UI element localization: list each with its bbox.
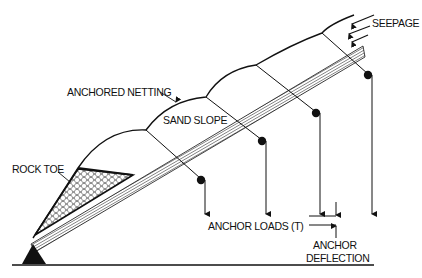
label-anchor-deflection-2: DEFLECTION — [306, 252, 370, 264]
label-seepage: SEEPAGE — [372, 17, 420, 29]
slope-diagram: SEEPAGE ANCHORED NETTING SAND SLOPE ROCK… — [0, 0, 422, 278]
seepage-arrow-2 — [349, 26, 370, 34]
seepage-arrow-3 — [352, 35, 368, 42]
label-anchor-loads: ANCHOR LOADS (T) — [208, 220, 304, 232]
label-sand-slope: SAND SLOPE — [163, 114, 227, 126]
anchor-3 — [312, 109, 320, 117]
anchor-1 — [197, 176, 205, 184]
label-anchored-netting: ANCHORED NETTING — [67, 86, 171, 98]
seepage-arrow-1 — [352, 15, 374, 24]
label-rock-toe: ROCK TOE — [12, 163, 64, 175]
anchor-4 — [364, 71, 372, 79]
hatched-wall — [31, 46, 365, 252]
label-anchor-deflection-1: ANCHOR — [313, 239, 357, 251]
anchor-2 — [258, 137, 266, 145]
